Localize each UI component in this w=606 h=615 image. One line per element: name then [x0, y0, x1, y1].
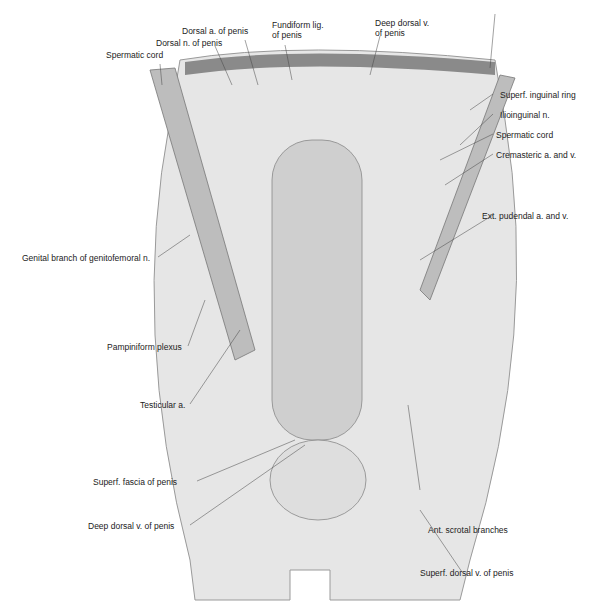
label-genital-branch: Genital branch of genitofemoral n.: [22, 253, 150, 263]
anatomical-figure: Spermatic cord Dorsal n. of penis Dorsal…: [0, 0, 606, 615]
label-superf-inguinal-ring: Superf. inguinal ring: [500, 90, 576, 100]
label-dorsal-n: Dorsal n. of penis: [156, 38, 222, 48]
label-deep-dorsal-v-top-line2: of penis: [375, 28, 429, 38]
label-testicular-a: Testicular a.: [140, 400, 185, 410]
label-ant-scrotal: Ant. scrotal branches: [428, 525, 508, 535]
label-superf-fascia: Superf. fascia of penis: [93, 477, 177, 487]
label-fundiform-lig-line2: of penis: [272, 30, 324, 40]
label-cremasteric: Cremasteric a. and v.: [496, 150, 576, 160]
label-spermatic-cord-left: Spermatic cord: [106, 50, 163, 60]
label-deep-dorsal-v-top: Deep dorsal v. of penis: [375, 18, 429, 38]
label-fundiform-lig: Fundiform lig. of penis: [272, 20, 324, 40]
label-dorsal-a: Dorsal a. of penis: [182, 26, 248, 36]
label-fundiform-lig-line1: Fundiform lig.: [272, 20, 324, 30]
label-ilioinguinal-n: Ilioinguinal n.: [500, 110, 550, 120]
label-spermatic-cord-right: Spermatic cord: [496, 130, 553, 140]
label-pampiniform: Pampiniform plexus: [107, 342, 182, 352]
label-deep-dorsal-v-top-line1: Deep dorsal v.: [375, 18, 429, 28]
label-superf-dorsal-v: Superf. dorsal v. of penis: [420, 568, 513, 578]
label-deep-dorsal-v-bottom: Deep dorsal v. of penis: [88, 521, 174, 531]
label-ext-pudendal: Ext. pudendal a. and v.: [482, 211, 568, 221]
